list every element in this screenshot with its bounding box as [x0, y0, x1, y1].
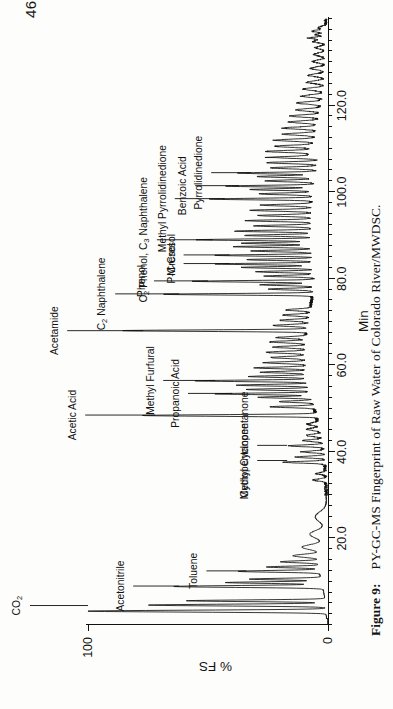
peak-label-c2-naphthalene: C2 Naphthalene: [97, 257, 109, 330]
peak-label-acetonitrile: Acetonitrile: [116, 561, 127, 612]
peak-label-toluene: Toluene: [190, 553, 201, 589]
chromatogram-trace: [88, 19, 328, 625]
rotated-chart-frame: 20.040.060.080.0100.0120.0 0100 Min % FS…: [0, 0, 393, 709]
figure-page: 4636449 20.040.060.080.0100.0120.0 0100 …: [0, 0, 393, 709]
peak-label-methyl-cyclopentanone: Methyl Cyclopentanone: [240, 392, 251, 500]
peak-label-c2-phenol-c3-naphthalene: C2 Phenol, C3 Naphthalene: [139, 177, 151, 302]
figure-label: Figure 9:: [368, 583, 383, 636]
peak-label-propanoic-acid: Propanoic Acid: [171, 359, 182, 428]
figure-caption-text: PY-GC-MS Fingerprint of Raw Water of Col…: [368, 205, 383, 570]
peak-label-co2: CO2: [12, 596, 24, 616]
peak-label-acetamide: Acetamide: [50, 306, 61, 355]
peak-label-methyl-furfural: Methyl Furfural: [146, 346, 157, 415]
peak-label-methyl-pyrrolidinedione: Methyl Pyrrolidinedione: [158, 145, 169, 252]
peak-label-pyrrolidinedione: Pyrrolidinedione: [194, 136, 205, 210]
peak-label-acetic-acid: Acetic Acid: [68, 390, 79, 440]
chromatogram-plot: 20.040.060.080.0100.0120.0 0100 Min % FS…: [0, 0, 393, 709]
peak-label-benzoic-acid: Benzoic Acid: [178, 156, 189, 215]
figure-caption: Figure 9:PY-GC-MS Fingerprint of Raw Wat…: [368, 205, 384, 636]
